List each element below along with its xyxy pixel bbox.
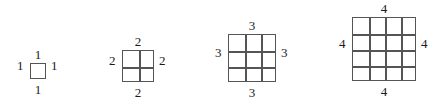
grid-line-horizontal [353,66,415,68]
side-label-right: 4 [421,37,428,50]
grid-line-vertical [385,18,387,80]
grid-line-horizontal [353,50,415,52]
grid-4x4: 4444 [0,0,443,106]
side-label-top: 4 [381,2,388,15]
square-grids-figure: 1111222233334444 [0,0,443,106]
side-label-bottom: 4 [381,85,388,98]
side-label-left: 4 [339,37,346,50]
grid-line-vertical [369,18,371,80]
grid-line-horizontal [353,34,415,36]
grid-line-vertical [401,18,403,80]
grid-square [352,17,416,81]
